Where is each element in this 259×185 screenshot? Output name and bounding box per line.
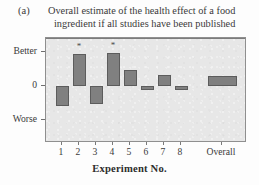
bar-1 [56,86,69,106]
caption-line-1: Overall estimate of the health effect of… [48,4,248,17]
y-axis-label-worse: Worse [1,114,37,124]
x-axis-label-1: 1 [59,146,64,157]
x-axis-label-6: 6 [144,146,149,157]
bar-5 [124,70,137,86]
x-axis-label-3: 3 [93,146,98,157]
zero-reference-line [46,38,245,39]
y-axis-label-better: Better [1,46,37,56]
bar-8 [175,86,188,90]
caption-text: Overall estimate of the health effect of… [48,4,248,30]
plot-area: ** [45,37,246,142]
x-axis-title: Experiment No. [0,163,259,174]
y-axis-label-0: 0 [1,80,37,90]
significance-asterisk-4: * [103,41,123,50]
x-axis-tick [112,142,113,145]
x-axis-tick [180,142,181,145]
x-axis-tick [61,142,62,145]
x-axis-tick [78,142,79,145]
panel-label: (a) [18,4,30,17]
x-axis-tick [163,142,164,145]
x-axis-tick [221,142,222,145]
x-axis-tick [129,142,130,145]
bar-4 [107,53,120,86]
x-axis-label-8: 8 [178,146,183,157]
bar-3 [90,86,103,104]
caption-line-2: ingredient if all studies have been publ… [48,17,248,30]
x-axis-label-4: 4 [110,146,115,157]
bar-6 [141,86,154,90]
significance-asterisk-2: * [69,42,89,51]
bar-overall [208,76,237,86]
figure-caption: (a) Overall estimate of the health effec… [0,4,259,34]
x-axis-label-7: 7 [161,146,166,157]
x-axis-tick [146,142,147,145]
x-axis-label-5: 5 [127,146,132,157]
x-axis-tick [95,142,96,145]
bar-7 [158,75,171,86]
x-axis-label-2: 2 [76,146,81,157]
bar-2 [73,54,86,86]
figure-panel-a: (a) Overall estimate of the health effec… [0,0,259,185]
x-axis-label-overall: Overall [207,146,236,157]
